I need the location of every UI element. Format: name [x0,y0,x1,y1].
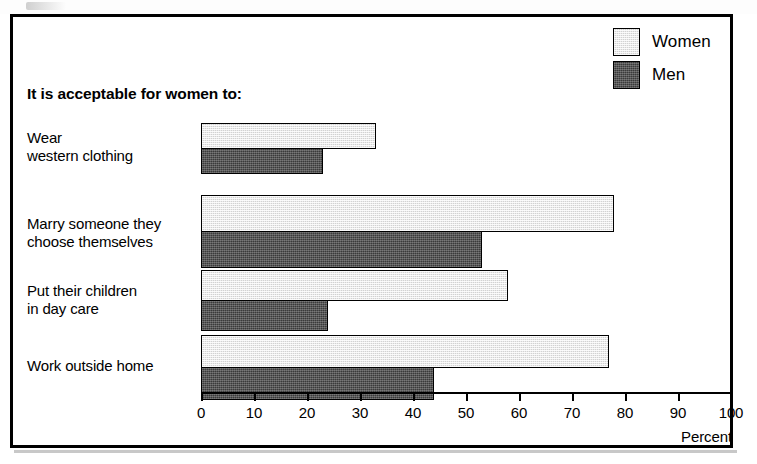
bar-men [201,300,328,331]
axis-tick [731,392,733,401]
axis-tick [466,392,468,401]
category-label: Put their children in day care [27,282,137,317]
axis-tick-label: 50 [446,404,486,421]
axis-tick-label: 40 [393,404,433,421]
plot-area: Wear western clothing Marry someone they… [13,17,730,445]
axis-tick-label: 90 [658,404,698,421]
axis-tick-label: 60 [499,404,539,421]
bar-men [201,231,482,268]
axis-title: Percent [681,428,732,445]
bar-women [201,270,508,301]
axis-tick [307,392,309,401]
axis-tick-label: 0 [181,404,221,421]
frame-shadow [14,450,737,453]
axis-tick [625,392,627,401]
category-label: Wear western clothing [27,129,133,164]
bar-pair [201,123,376,174]
bar-women [201,335,609,368]
axis-tick-label: 30 [340,404,380,421]
axis-tick [678,392,680,401]
bar-pair [201,335,609,400]
bar-women [201,195,614,232]
axis-tick [360,392,362,401]
axis-tick [254,392,256,401]
scan-artifact [0,0,757,14]
category-label: Marry someone they choose themselves [27,215,161,250]
bar-women [201,123,376,149]
bar-pair [201,195,614,268]
axis-tick-label: 70 [552,404,592,421]
axis-tick [572,392,574,401]
category-label: Work outside home [27,357,153,375]
chart-figure: Women Men It is acceptable for women to:… [10,14,733,448]
axis-tick [201,392,203,401]
axis-tick [413,392,415,401]
x-axis: 0 10 20 30 40 50 60 70 80 90 100 Percent [201,392,736,442]
axis-tick-label: 20 [287,404,327,421]
bar-men [201,148,323,174]
axis-tick [519,392,521,401]
bar-pair [201,270,508,331]
axis-tick-label: 10 [234,404,274,421]
axis-tick-label: 100 [711,404,751,421]
axis-tick-label: 80 [605,404,645,421]
scan-smudge [26,2,66,10]
